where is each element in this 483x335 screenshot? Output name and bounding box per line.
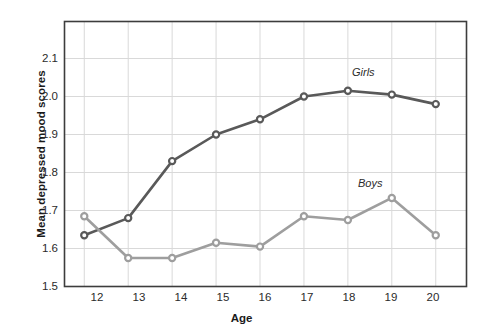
x-axis-title: Age	[0, 312, 483, 324]
y-tick-label: 1.9	[24, 128, 58, 140]
y-tick-label: 1.7	[24, 204, 58, 216]
x-tick-label: 16	[250, 291, 280, 303]
x-tick-label: 19	[376, 291, 406, 303]
chart-container: Mean depressed mood scores 2.1 2.0 1.9 1…	[0, 0, 483, 335]
series-label-boys: Boys	[358, 177, 382, 189]
gridlines	[65, 22, 467, 287]
data-point-marker	[389, 92, 395, 98]
y-tick-label: 1.6	[24, 242, 58, 254]
data-point-marker	[301, 93, 307, 99]
data-point-marker	[345, 217, 351, 223]
data-point-marker	[125, 255, 131, 261]
data-point-marker	[257, 244, 263, 250]
x-tick-label: 12	[82, 291, 112, 303]
x-tick-label: 15	[208, 291, 238, 303]
data-point-marker	[257, 116, 263, 122]
y-axis-tick-labels: 2.1 2.0 1.9 1.8 1.7 1.6 1.5	[22, 0, 58, 286]
data-point-marker	[389, 195, 395, 201]
data-point-marker	[81, 213, 87, 219]
plot-frame	[65, 22, 467, 287]
data-point-marker	[125, 215, 131, 221]
y-tick-label: 2.1	[24, 52, 58, 64]
data-point-marker	[169, 158, 175, 164]
x-tick-label: 13	[124, 291, 154, 303]
data-point-marker	[301, 213, 307, 219]
plot-area	[0, 0, 483, 335]
y-tick-label: 1.5	[24, 280, 58, 292]
data-point-marker	[213, 131, 219, 137]
y-tick-label: 1.8	[24, 166, 58, 178]
data-point-marker	[345, 88, 351, 94]
data-point-marker	[169, 255, 175, 261]
series-label-girls: Girls	[352, 66, 375, 78]
x-tick-label: 17	[292, 291, 322, 303]
x-tick-label: 14	[166, 291, 196, 303]
data-point-marker	[213, 240, 219, 246]
data-point-marker	[433, 101, 439, 107]
y-tick-label: 2.0	[24, 90, 58, 102]
x-tick-label: 18	[334, 291, 364, 303]
data-point-marker	[81, 232, 87, 238]
data-point-marker	[433, 232, 439, 238]
x-tick-label: 20	[418, 291, 448, 303]
